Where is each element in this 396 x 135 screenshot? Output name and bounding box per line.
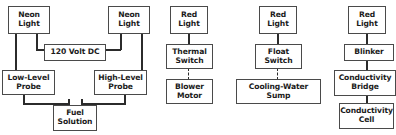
node-blinker: Blinker [344, 44, 394, 61]
node-power-supply: 120 Volt DC [44, 44, 106, 61]
wire-neon-right-to-supply-vertical [120, 33, 122, 50]
node-red-light-conductivity: Red Light [348, 6, 386, 34]
wire-neon-left-to-low-probe [15, 33, 17, 71]
node-neon-light-right: Neon Light [108, 6, 150, 34]
node-low-level-probe: Low-Level Probe [2, 70, 55, 95]
node-high-level-probe: High-Level Probe [94, 70, 147, 95]
node-red-light-float: Red Light [259, 6, 297, 34]
node-float-switch: Float Switch [255, 44, 302, 69]
node-thermal-switch: Thermal Switch [166, 44, 213, 69]
node-neon-light-left: Neon Light [8, 6, 50, 34]
node-conductivity-cell: Conductivity Cell [339, 103, 394, 129]
node-fuel-solution: Fuel Solution [53, 105, 97, 131]
wire-neon-left-to-supply-vertical [36, 33, 38, 50]
node-conductivity-bridge: Conductivity Bridge [334, 70, 396, 96]
wire-neon-right-to-high-probe [141, 33, 143, 71]
node-cooling-water-sump: Cooling-Water Sump [236, 79, 321, 104]
node-red-light-thermal: Red Light [170, 6, 208, 34]
wire-neon-right-to-supply-horizontal [104, 49, 121, 51]
node-blower-motor: Blower Motor [166, 79, 213, 104]
